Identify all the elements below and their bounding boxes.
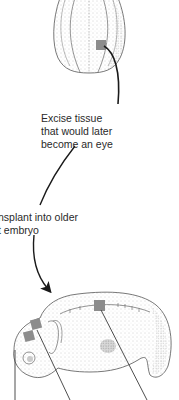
arrow-to-host <box>34 235 48 289</box>
label-transplant: nsplant into older t embryo <box>0 211 78 237</box>
label-line: Excise tissue <box>41 112 113 125</box>
diagram-artwork <box>0 0 179 400</box>
label-line: that would later <box>41 125 113 138</box>
label-line: become an eye <box>41 138 113 151</box>
graft-site-dorsal-trunk <box>94 300 105 311</box>
label-excise-tissue: Excise tissue that would later become an… <box>41 112 113 151</box>
figure-canvas: Excise tissue that would later become an… <box>0 0 179 400</box>
label-line: nsplant into older <box>0 211 78 224</box>
host-embryo <box>14 292 171 377</box>
connector-line-transplant <box>40 146 75 205</box>
label-line: t embryo <box>0 224 78 237</box>
excision-patch <box>96 40 106 50</box>
